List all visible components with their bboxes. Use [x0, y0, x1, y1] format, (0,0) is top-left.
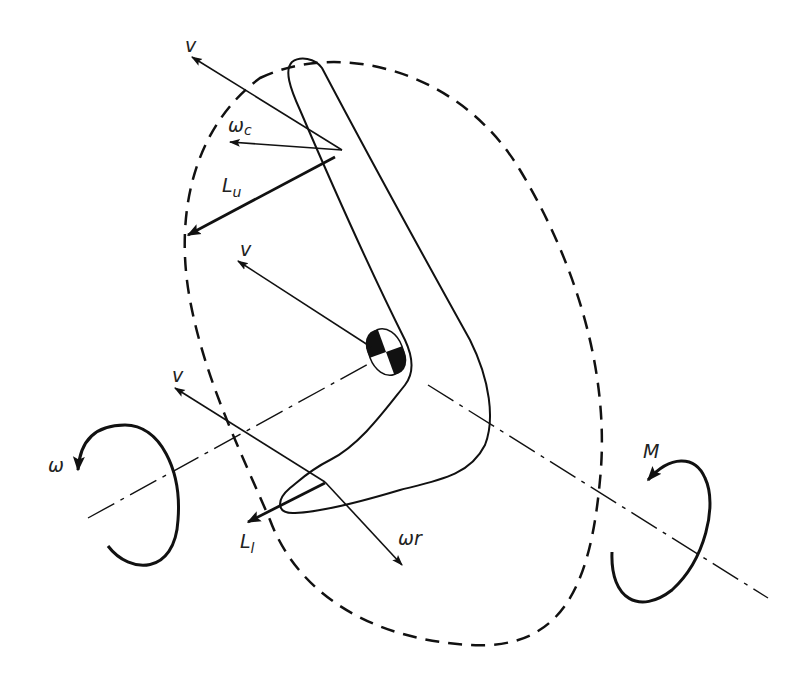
- lift-vector-lower: [248, 483, 325, 522]
- velocity-vector-lower: [175, 388, 325, 482]
- rotational-velocity-vector-lower: [325, 482, 402, 565]
- label-omega-c: ωc: [228, 114, 252, 138]
- boomerang-outline: [280, 59, 490, 513]
- label-v-center: v: [240, 238, 252, 260]
- label-v-lower: v: [172, 364, 184, 386]
- precession-moment-arrow-M: [612, 461, 710, 602]
- label-omega-spin: ω: [48, 454, 64, 476]
- lift-vector-upper: [188, 157, 335, 235]
- label-omega-r: ωr: [398, 527, 423, 549]
- velocity-vector-center: [238, 261, 371, 347]
- center-of-mass-marker: [361, 324, 411, 381]
- label-v-top: v: [185, 34, 197, 56]
- boomerang-diagram: v ωc Lu v v ω Ll ωr M: [0, 0, 797, 677]
- label-L-u: Lu: [222, 174, 242, 200]
- label-L-l: Ll: [240, 530, 255, 556]
- rotational-velocity-vector-upper: [230, 142, 342, 150]
- velocity-vector-upper: [192, 57, 342, 150]
- label-M: M: [643, 440, 659, 462]
- spin-rotation-arrow-omega: [78, 425, 178, 565]
